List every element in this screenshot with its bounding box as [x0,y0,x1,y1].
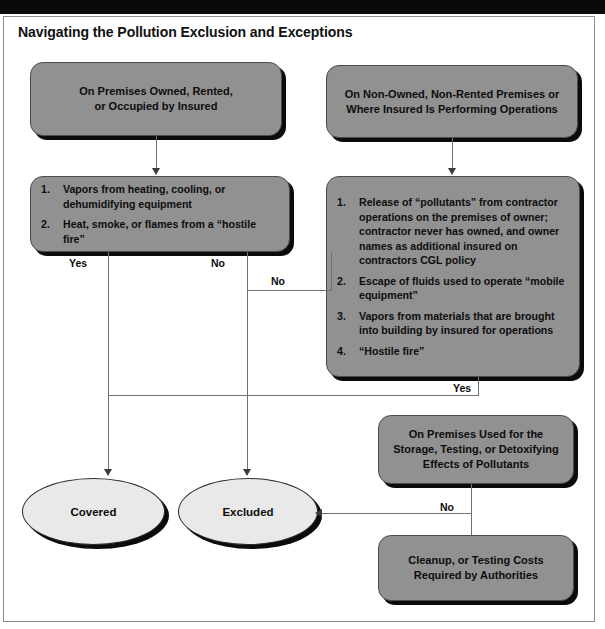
connector-non-owned-yes-horizontal [108,395,479,396]
edge-label-non-owned-no: No [268,275,288,287]
list-item: 2. Heat, smoke, or flames from a “hostil… [41,217,279,246]
arrow-owned-yes-to-covered [104,469,112,476]
edge-label-owned-no: No [208,257,228,269]
list-item: 4. “Hostile fire” [337,344,569,359]
flowchart-page: Navigating the Pollution Exclusion and E… [0,0,605,629]
node-excluded-label: Excluded [222,506,273,518]
connector-non-owned-no-horizontal [247,290,332,291]
node-premises-owned[interactable]: On Premises Owned, Rented, or Occupied b… [30,62,282,136]
non-owned-exceptions-list: 1. Release of “pollutants” from contract… [327,195,579,358]
connector-non-owned-yes-vertical [478,377,479,396]
list-item-number: 2. [41,217,57,232]
list-item-number: 2. [337,274,353,289]
list-item-number: 4. [337,344,353,359]
arrow-owned-no-to-excluded [243,469,251,476]
node-owned-exceptions[interactable]: 1. Vapors from heating, cooling, or dehu… [30,176,290,252]
list-item-text: Release of “pollutants” from contractor … [359,196,559,266]
connector-owned-no [247,252,248,471]
node-cleanup-costs[interactable]: Cleanup, or Testing Costs Required by Au… [378,535,574,601]
node-cleanup-costs-line2: Required by Authorities [408,568,543,583]
arrow-non-owned-to-exceptions [448,168,456,175]
node-cleanup-costs-line1: Cleanup, or Testing Costs [408,553,543,568]
page-bottom-margin [0,623,605,629]
list-item-number: 3. [337,309,353,324]
connector-non-owned-no-vertical [331,252,332,291]
node-premises-owned-line1: On Premises Owned, Rented, [79,84,232,99]
list-item: 1. Vapors from heating, cooling, or dehu… [41,182,279,211]
list-item-text: Escape of fluids used to operate “mobile… [359,275,564,302]
list-item: 1. Release of “pollutants” from contract… [337,195,569,268]
node-covered[interactable]: Covered [22,478,165,545]
node-storage-testing[interactable]: On Premises Used for the Storage, Testin… [378,415,574,484]
connector-owned-yes [108,252,109,471]
connector-storage-no-vertical [471,484,472,535]
node-storage-testing-line3: Effects of Pollutants [393,457,558,472]
page-right-margin [596,16,605,629]
node-non-owned-premises[interactable]: On Non-Owned, Non-Rented Premises or Whe… [326,65,578,138]
list-item-text: Vapors from materials that are brought i… [359,310,554,337]
edge-label-non-owned-yes: Yes [450,382,474,394]
node-premises-owned-line2: or Occupied by Insured [79,99,232,114]
list-item-number: 1. [337,195,353,210]
edge-label-storage-no: No [437,501,457,513]
node-covered-label: Covered [70,506,116,518]
arrow-owned-to-exceptions [152,168,160,175]
page-title: Navigating the Pollution Exclusion and E… [18,24,352,40]
list-item-text: Vapors from heating, cooling, or dehumid… [63,183,225,210]
node-storage-testing-line1: On Premises Used for the [393,427,558,442]
list-item-text: “Hostile fire” [359,345,424,357]
connector-storage-no-horizontal [322,513,472,514]
connector-owned-to-exceptions [156,136,157,170]
connector-non-owned-to-exceptions [452,138,453,170]
node-non-owned-premises-line2: Where Insured Is Performing Operations [345,102,560,117]
node-storage-testing-line2: Storage, Testing, or Detoxifying [393,442,558,457]
node-excluded[interactable]: Excluded [178,478,318,545]
top-black-bar [0,0,605,14]
list-item-text: Heat, smoke, or flames from a “hostile f… [63,218,256,245]
edge-label-owned-yes: Yes [66,257,90,269]
list-item-number: 1. [41,182,57,197]
node-non-owned-exceptions[interactable]: 1. Release of “pollutants” from contract… [326,176,580,377]
node-non-owned-premises-line1: On Non-Owned, Non-Rented Premises or [345,87,560,102]
list-item: 3. Vapors from materials that are brough… [337,309,569,338]
owned-exceptions-list: 1. Vapors from heating, cooling, or dehu… [31,182,289,246]
arrow-storage-no-to-excluded [315,509,322,517]
list-item: 2. Escape of fluids used to operate “mob… [337,274,569,303]
